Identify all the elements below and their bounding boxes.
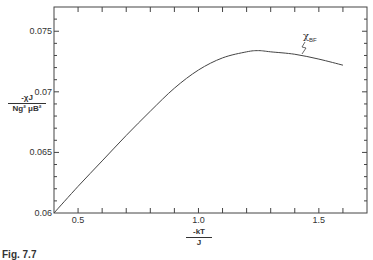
x-axis-label: -kT J <box>186 228 212 247</box>
series-label-sub: BF <box>309 37 317 43</box>
x-axis-label-numerator: -kT <box>186 228 212 238</box>
series-label: χBF <box>303 30 317 43</box>
figure-caption-prefix: Fig. 7.7 <box>2 249 36 260</box>
svg-text:0.065: 0.065 <box>29 147 52 157</box>
figure-caption: Fig. 7.7 <box>2 249 36 260</box>
svg-text:1.0: 1.0 <box>192 215 205 225</box>
y-axis-label: -χJ Ng² μB² <box>2 94 52 113</box>
series-label-leader <box>302 42 306 54</box>
tick-labels: 0.51.01.50.060.0650.070.075 <box>29 26 325 225</box>
series-line-chi-bf <box>54 51 343 213</box>
axis-ticks <box>54 7 367 213</box>
svg-text:0.06: 0.06 <box>34 208 52 218</box>
y-axis-label-denominator: Ng² μB² <box>2 104 52 113</box>
y-axis-label-numerator: -χJ <box>8 94 46 104</box>
svg-text:0.075: 0.075 <box>29 26 52 36</box>
svg-text:0.5: 0.5 <box>72 215 85 225</box>
plot-frame <box>54 7 367 213</box>
x-axis-label-denominator: J <box>186 238 212 247</box>
svg-text:1.5: 1.5 <box>313 215 326 225</box>
